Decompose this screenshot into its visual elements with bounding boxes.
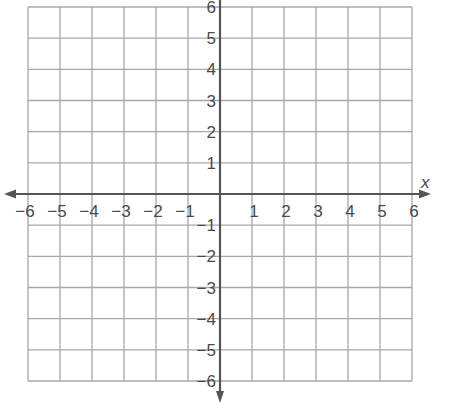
x-tick-label: 4 xyxy=(345,202,354,221)
x-tick-label: 6 xyxy=(409,202,418,221)
y-tick-label: −5 xyxy=(197,341,216,360)
y-tick-label: 1 xyxy=(207,154,216,173)
x-axis-left-arrow-icon xyxy=(4,190,16,199)
x-tick-label: 5 xyxy=(377,202,386,221)
x-tick-label: −5 xyxy=(47,202,66,221)
x-axis-title: x xyxy=(420,173,430,192)
y-tick-label: −2 xyxy=(197,247,216,266)
x-tick-label: −1 xyxy=(175,202,194,221)
coordinate-plane: −6−5−4−3−2−1123456 654321−1−2−3−4−5−6 x xyxy=(0,0,451,408)
y-tick-label: 5 xyxy=(207,29,216,48)
y-tick-label: 2 xyxy=(207,123,216,142)
y-tick-label: 4 xyxy=(207,60,216,79)
x-tick-label: 2 xyxy=(281,202,290,221)
x-tick-label: −6 xyxy=(15,202,34,221)
x-tick-label: −2 xyxy=(143,202,162,221)
y-tick-label: 6 xyxy=(207,0,216,17)
x-tick-label: −3 xyxy=(111,202,130,221)
y-axis-down-arrow-icon xyxy=(216,391,224,403)
y-tick-label: −4 xyxy=(197,310,216,329)
y-tick-label: −1 xyxy=(197,216,216,235)
y-tick-labels: 654321−1−2−3−4−5−6 xyxy=(197,0,216,391)
y-tick-label: −3 xyxy=(197,279,216,298)
axes xyxy=(4,0,431,403)
x-tick-label: 1 xyxy=(249,202,258,221)
x-tick-label: 3 xyxy=(313,202,322,221)
x-tick-labels: −6−5−4−3−2−1123456 xyxy=(15,202,418,221)
y-tick-label: −6 xyxy=(197,372,216,391)
x-tick-label: −4 xyxy=(79,202,98,221)
y-tick-label: 3 xyxy=(207,92,216,111)
